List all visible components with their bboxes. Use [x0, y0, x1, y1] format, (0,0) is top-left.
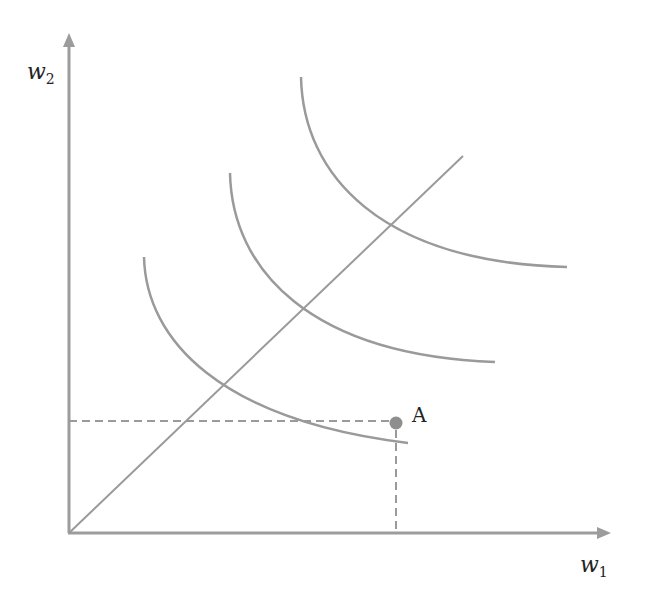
- x-axis-label-main: w: [580, 552, 599, 577]
- x-axis-label-subscript: 1: [599, 564, 608, 580]
- x-axis-label: w1: [580, 552, 608, 580]
- isoquant-curve-3: [301, 77, 567, 267]
- diagram-canvas: A w2 w1: [0, 0, 647, 607]
- axes: [63, 33, 611, 539]
- point-a-marker: [390, 417, 403, 430]
- expansion-ray: [69, 156, 463, 533]
- x-axis-arrow-icon: [597, 527, 611, 539]
- point-a-label: A: [411, 403, 427, 427]
- y-axis-label-subscript: 2: [46, 71, 55, 87]
- isoquant-curve-2: [230, 173, 495, 362]
- y-axis-label: w2: [27, 59, 55, 87]
- y-axis-arrow-icon: [63, 33, 75, 47]
- y-axis-label-main: w: [27, 59, 46, 84]
